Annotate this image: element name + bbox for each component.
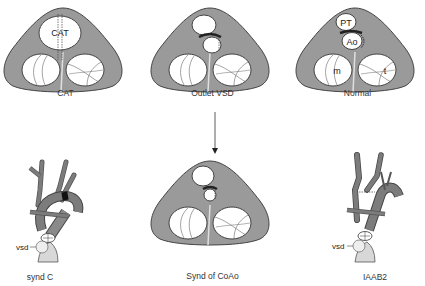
pulmonary-valve	[192, 15, 216, 35]
panel-cat: CAT CAT	[3, 0, 128, 100]
heart-cross-section-outlet-vsd	[150, 0, 275, 100]
panel-synd-c: vsd synd C	[0, 150, 110, 286]
panel-outlet-vsd: Outlet VSD	[150, 0, 275, 100]
caption-iaab2: IAAB2	[335, 272, 415, 282]
vsd-label-synd-c: vsd	[16, 243, 28, 252]
vsd-label-iaab2: vsd	[332, 242, 344, 251]
panel-iaab2: vsd IAAB2	[315, 150, 425, 286]
vsd-circle	[36, 241, 48, 253]
aortic-valve	[203, 37, 221, 53]
mitral-label: m	[333, 66, 341, 76]
aortic-arch-synd-c: vsd	[0, 150, 110, 286]
down-arrow-icon	[205, 110, 225, 155]
cat-inner-label: CAT	[51, 28, 69, 38]
vsd-circle	[353, 240, 365, 252]
caption-outlet-vsd: Outlet VSD	[150, 88, 275, 98]
heart-cross-section-cat: CAT	[3, 0, 128, 100]
heart-cross-section-normal: PT Ao m t	[295, 0, 420, 100]
caption-synd-c: synd C	[0, 272, 80, 282]
panel-synd-coao: Synd of CoAo	[150, 153, 275, 286]
panel-normal: PT Ao m t Normal	[295, 0, 420, 100]
ao-label: Ao	[346, 37, 357, 47]
caption-synd-coao: Synd of CoAo	[150, 271, 275, 281]
pt-label: PT	[340, 18, 352, 28]
aortic-arch-iaab2: vsd	[315, 150, 425, 286]
caption-normal: Normal	[295, 88, 420, 98]
caption-cat: CAT	[3, 88, 128, 98]
heart-cross-section-synd-coao	[150, 153, 275, 253]
